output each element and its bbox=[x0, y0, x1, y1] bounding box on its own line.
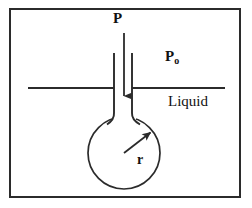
liquid-label: Liquid bbox=[168, 94, 208, 109]
diagram-canvas bbox=[0, 0, 252, 208]
ambient-pressure-label: Po bbox=[165, 49, 179, 66]
capillary-pressure-figure: P Po Liquid r bbox=[0, 0, 252, 208]
ambient-pressure-subscript: o bbox=[174, 55, 179, 66]
applied-pressure-label: P bbox=[113, 11, 122, 26]
radius-arrow bbox=[124, 133, 151, 154]
ambient-pressure-symbol: P bbox=[165, 48, 174, 64]
radius-label: r bbox=[137, 153, 143, 167]
